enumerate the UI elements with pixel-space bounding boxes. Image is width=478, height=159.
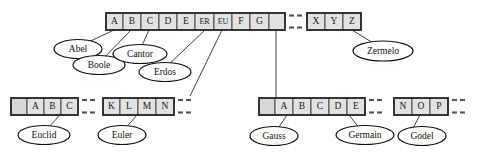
oval-node-erdos[interactable]: Erdos: [139, 63, 191, 82]
bottom-mid-ellipsis-dashes: [178, 100, 191, 113]
bottom-right-bucket-table[interactable]: A B C D E: [259, 98, 365, 115]
germain-label: Germain: [348, 130, 381, 140]
abel-label: Abel: [69, 44, 88, 54]
top-cell-b-label: B: [129, 16, 135, 26]
oval-node-godel[interactable]: Godel: [398, 127, 446, 146]
bottom-far-right-ellipsis-dashes: [452, 100, 465, 113]
top-cell-d-label: D: [165, 16, 172, 26]
erdos-label: Erdos: [154, 67, 176, 77]
top-directory-table[interactable]: A B C D E ER EU F G: [106, 13, 285, 30]
bottom-right-cell-c-label: C: [317, 101, 323, 111]
oval-node-gauss[interactable]: Gauss: [250, 127, 298, 146]
top-tail-cell-x-label: X: [313, 16, 320, 26]
bottom-far-right-bucket-table[interactable]: N O P: [394, 98, 448, 115]
diagram-canvas: A B C D E ER EU F G X Y Z: [0, 0, 478, 159]
diagram-svg: A B C D E ER EU F G X Y Z: [0, 0, 478, 159]
top-cell-a-label: A: [111, 16, 118, 26]
bottom-right-ellipsis-dashes: [369, 100, 382, 113]
bottom-far-right-cell-p-label: P: [436, 101, 441, 111]
bottom-mid-cell-m-label: M: [143, 101, 152, 111]
bottom-right-cell-b-label: B: [299, 101, 305, 111]
top-cell-c-label: C: [147, 16, 153, 26]
bottom-middle-bucket-table[interactable]: K L M N: [103, 98, 174, 115]
top-cell-g-label: G: [256, 16, 263, 26]
bottom-left-cell-c-label: C: [66, 101, 72, 111]
boole-label: Boole: [88, 60, 111, 70]
bottom-left-bucket-table[interactable]: A B C: [11, 98, 78, 115]
zermelo-label: Zermelo: [367, 46, 399, 56]
top-cell-e-label: E: [183, 16, 189, 26]
top-cell-eu-label: EU: [218, 17, 229, 26]
bottom-right-cell-e-label: E: [353, 101, 359, 111]
bottom-left-cell-a-label: A: [32, 101, 39, 111]
bottom-left-ellipsis-dashes: [82, 100, 95, 113]
bottom-mid-cell-n-label: N: [162, 101, 169, 111]
bottom-right-cell-a-label: A: [281, 101, 288, 111]
top-table-ellipsis-dashes: [289, 16, 302, 28]
gauss-label: Gauss: [262, 131, 286, 141]
euler-label: Euler: [112, 130, 133, 140]
top-cell-trailing-blank[interactable]: [269, 13, 285, 30]
bottom-right-cell-blank[interactable]: [259, 98, 275, 115]
bottom-far-right-cell-o-label: O: [418, 101, 425, 111]
cantor-label: Cantor: [127, 49, 154, 59]
top-tail-cell-y-label: Y: [331, 16, 338, 26]
bottom-mid-cell-l-label: L: [126, 101, 132, 111]
euclid-label: Euclid: [32, 130, 57, 140]
bottom-mid-cell-k-label: K: [108, 101, 115, 111]
bottom-right-cell-d-label: D: [335, 101, 342, 111]
oval-node-euclid[interactable]: Euclid: [18, 126, 70, 145]
top-cell-f-label: F: [238, 16, 243, 26]
oval-node-euler[interactable]: Euler: [98, 126, 146, 145]
oval-node-germain[interactable]: Germain: [336, 126, 394, 145]
top-cell-er-label: ER: [199, 17, 210, 26]
bottom-left-cell-blank[interactable]: [11, 98, 27, 115]
godel-label: Godel: [410, 131, 434, 141]
top-directory-table-tail[interactable]: X Y Z: [307, 13, 361, 30]
oval-node-cantor[interactable]: Cantor: [113, 45, 167, 64]
bottom-left-cell-b-label: B: [49, 101, 55, 111]
bottom-far-right-cell-n-label: N: [400, 101, 407, 111]
top-tail-cell-z-label: Z: [349, 16, 355, 26]
oval-node-zermelo[interactable]: Zermelo: [353, 41, 413, 61]
